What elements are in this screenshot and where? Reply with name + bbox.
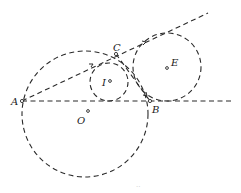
- point-B: [148, 99, 151, 102]
- arrow-mark-ac: [89, 64, 93, 67]
- arrow-mark-ext: [142, 41, 146, 45]
- label-O: O: [77, 115, 85, 126]
- point-O: [87, 110, 90, 113]
- geometry-figure: A B C O I E ··: [0, 0, 241, 193]
- label-C: C: [113, 42, 121, 53]
- label-B: B: [151, 104, 159, 115]
- line-AC-extended: [22, 13, 208, 101]
- caption-mark: ··: [136, 183, 140, 191]
- point-I: [109, 80, 112, 83]
- label-I: I: [101, 77, 107, 88]
- point-E: [166, 67, 169, 70]
- label-E: E: [170, 57, 179, 68]
- label-A: A: [10, 96, 18, 107]
- point-A: [20, 99, 23, 102]
- circumcircle-O: [22, 51, 148, 177]
